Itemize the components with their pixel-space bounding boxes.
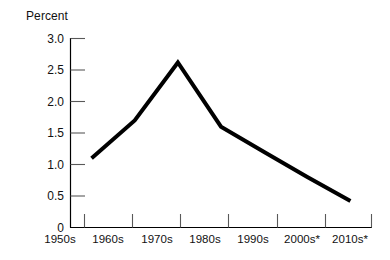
y-axis-group <box>71 38 86 228</box>
x-tick-marks <box>85 214 372 228</box>
line-chart: Percent <box>0 0 390 260</box>
x-axis-label-1960s: 1960s <box>92 234 123 246</box>
y-tick-marks <box>71 39 86 197</box>
y-axis-label-1-0: 1.0 <box>30 159 64 171</box>
data-series-line <box>92 62 351 201</box>
x-axis-label-2000s: 2000s* <box>284 234 320 246</box>
x-axis-group <box>70 214 372 228</box>
x-axis-label-2010s: 2010s* <box>332 234 368 246</box>
x-axis-label-1980s: 1980s <box>189 234 220 246</box>
x-axis-label-1950s: 1950s <box>44 234 75 246</box>
x-axis-label-1970s: 1970s <box>141 234 172 246</box>
y-axis-label-3-0: 3.0 <box>30 33 64 45</box>
y-axis-label-0-5: 0.5 <box>30 190 64 202</box>
y-axis-label-1-5: 1.5 <box>30 127 64 139</box>
x-axis-label-1990s: 1990s <box>237 234 268 246</box>
y-axis-label-2-0: 2.0 <box>30 96 64 108</box>
y-axis-label-2-5: 2.5 <box>30 64 64 76</box>
